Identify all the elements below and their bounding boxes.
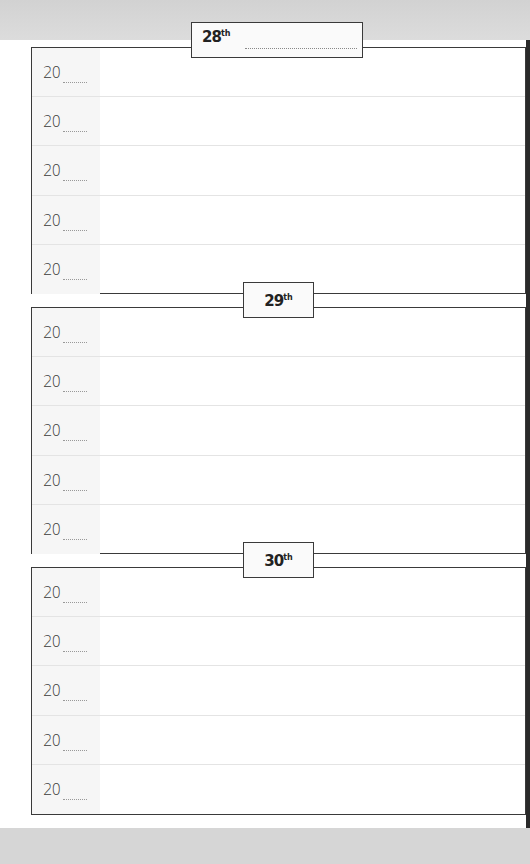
day-label-28: 28th	[191, 22, 363, 58]
year-blank-line[interactable]	[63, 700, 87, 701]
day-number: 28	[202, 28, 221, 46]
year-entry-row[interactable]: 20	[32, 666, 525, 715]
year-blank-line[interactable]	[63, 279, 87, 280]
month-blank-line[interactable]	[245, 48, 357, 49]
year-prefix: 20	[43, 113, 60, 131]
year-blank-line[interactable]	[63, 342, 87, 343]
year-blank-line[interactable]	[63, 799, 87, 800]
year-entry-row[interactable]: 20	[32, 196, 525, 245]
year-prefix: 20	[43, 584, 60, 602]
year-blank-line[interactable]	[63, 490, 87, 491]
year-prefix: 20	[43, 521, 60, 539]
year-prefix: 20	[43, 732, 60, 750]
day-number: 29	[264, 292, 283, 310]
year-entry-row[interactable]: 20	[32, 716, 525, 765]
year-blank-line[interactable]	[63, 230, 87, 231]
day-section-30: 20 20 20 20 20	[31, 567, 526, 815]
year-prefix: 20	[43, 64, 60, 82]
year-entry-row[interactable]: 20	[32, 765, 525, 814]
year-entry-row[interactable]: 20	[32, 456, 525, 505]
year-prefix: 20	[43, 324, 60, 342]
year-blank-line[interactable]	[63, 750, 87, 751]
day-section-29: 20 20 20 20 20	[31, 307, 526, 554]
year-blank-line[interactable]	[63, 180, 87, 181]
year-blank-line[interactable]	[63, 602, 87, 603]
year-prefix: 20	[43, 682, 60, 700]
day-label-29: 29th	[243, 282, 314, 318]
year-blank-line[interactable]	[63, 131, 87, 132]
year-entry-row[interactable]: 20	[32, 406, 525, 455]
day-suffix: th	[221, 29, 231, 38]
year-prefix: 20	[43, 261, 60, 279]
year-entry-row[interactable]: 20	[32, 97, 525, 146]
year-entry-row[interactable]: 20	[32, 617, 525, 666]
year-prefix: 20	[43, 633, 60, 651]
year-prefix: 20	[43, 162, 60, 180]
day-section-28: 20 20 20 20 20	[31, 47, 526, 294]
year-prefix: 20	[43, 212, 60, 230]
year-entry-row[interactable]: 20	[32, 146, 525, 195]
year-blank-line[interactable]	[63, 651, 87, 652]
day-suffix: th	[283, 553, 293, 562]
year-prefix: 20	[43, 373, 60, 391]
year-blank-line[interactable]	[63, 440, 87, 441]
year-entry-row[interactable]: 20	[32, 357, 525, 406]
day-number: 30	[264, 552, 283, 570]
year-blank-line[interactable]	[63, 391, 87, 392]
year-blank-line[interactable]	[63, 82, 87, 83]
page-binding-edge	[526, 40, 530, 828]
year-prefix: 20	[43, 781, 60, 799]
year-prefix: 20	[43, 422, 60, 440]
page-bottom-margin	[0, 828, 530, 864]
day-label-30: 30th	[243, 542, 314, 578]
year-blank-line[interactable]	[63, 539, 87, 540]
day-suffix: th	[283, 293, 293, 302]
year-prefix: 20	[43, 472, 60, 490]
